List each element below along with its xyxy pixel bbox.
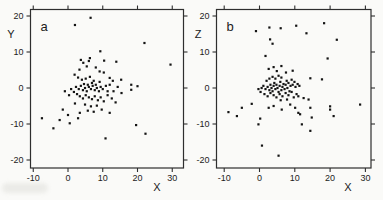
data-point: [52, 127, 54, 129]
data-point: [295, 93, 297, 95]
y-tick-label: 10: [13, 47, 23, 57]
data-point: [288, 90, 290, 92]
data-point: [103, 71, 105, 73]
data-point: [269, 38, 271, 40]
data-point: [109, 77, 111, 79]
data-point: [117, 86, 119, 88]
data-point: [99, 81, 101, 83]
data-point: [273, 82, 275, 84]
data-point: [274, 88, 276, 90]
data-point: [277, 155, 279, 157]
data-point: [276, 70, 278, 72]
data-point: [280, 99, 282, 101]
data-point: [77, 117, 79, 119]
data-point: [283, 88, 285, 90]
data-point: [98, 90, 100, 92]
data-point: [268, 68, 270, 70]
data-point: [115, 61, 117, 63]
data-point: [289, 85, 291, 87]
data-point: [277, 75, 279, 77]
data-point: [286, 87, 288, 89]
y-tick-label: -20: [10, 155, 23, 165]
data-point: [143, 42, 145, 44]
data-point: [280, 89, 282, 91]
data-point: [259, 91, 261, 93]
data-point: [321, 78, 323, 80]
data-point: [80, 59, 82, 61]
data-point: [95, 84, 97, 86]
panel-b: -10010203020100-10-20ZXb: [195, 6, 375, 194]
data-point: [77, 76, 79, 78]
x-axis-label: X: [344, 181, 352, 193]
data-point: [130, 89, 132, 91]
data-point: [89, 17, 91, 19]
data-point: [169, 64, 171, 66]
data-point: [94, 89, 96, 91]
data-point: [79, 112, 81, 114]
data-point: [87, 110, 89, 112]
data-point: [281, 86, 283, 88]
data-point: [251, 103, 253, 105]
data-point: [81, 79, 83, 81]
data-point: [327, 57, 329, 59]
data-point: [271, 43, 273, 45]
data-point: [293, 96, 295, 98]
data-point: [75, 86, 77, 88]
data-point: [285, 84, 287, 86]
data-point: [99, 50, 101, 52]
x-tick-label: -10: [218, 173, 231, 183]
data-point: [70, 88, 72, 90]
data-point: [74, 102, 76, 104]
y-axis-label: Y: [7, 28, 15, 40]
data-point: [103, 100, 105, 102]
scatter-points-b: [227, 22, 361, 157]
data-point: [262, 85, 264, 87]
data-point: [287, 82, 289, 84]
data-point: [333, 115, 335, 117]
x-tick-label: 30: [360, 173, 370, 183]
data-point: [268, 107, 270, 109]
data-point: [273, 105, 275, 107]
data-point: [135, 124, 137, 126]
data-point: [264, 88, 266, 90]
data-point: [259, 118, 261, 120]
data-point: [263, 93, 265, 95]
data-point: [90, 88, 92, 90]
data-point: [89, 57, 91, 59]
data-point: [136, 85, 138, 87]
panel-letter: a: [40, 19, 48, 34]
data-point: [88, 86, 90, 88]
data-point: [86, 65, 88, 67]
data-point: [359, 103, 361, 105]
data-point: [291, 91, 293, 93]
x-tick-label: -10: [27, 173, 40, 183]
data-point: [269, 92, 271, 94]
data-point: [91, 98, 93, 100]
data-point: [303, 97, 305, 99]
data-point: [67, 114, 69, 116]
data-point: [62, 109, 64, 111]
data-point: [85, 94, 87, 96]
data-point: [268, 89, 270, 91]
data-point: [82, 62, 84, 64]
data-point: [271, 76, 273, 78]
data-point: [289, 103, 291, 105]
scatter-figure-svg: -10010203020100-10-20YXa-10010203020100-…: [0, 0, 383, 200]
data-point: [78, 69, 80, 71]
data-point: [74, 24, 76, 26]
data-point: [79, 95, 81, 97]
x-tick-label: 20: [325, 173, 335, 183]
x-tick-label: 30: [167, 173, 177, 183]
data-point: [104, 137, 106, 139]
data-point: [297, 95, 299, 97]
axes-frame: [31, 10, 184, 169]
data-point: [280, 76, 282, 78]
data-point: [109, 112, 111, 114]
data-point: [227, 111, 229, 113]
data-point: [295, 25, 297, 27]
data-point: [279, 93, 281, 95]
data-point: [73, 91, 75, 93]
data-point: [89, 76, 91, 78]
data-point: [97, 99, 99, 101]
data-point: [275, 84, 277, 86]
